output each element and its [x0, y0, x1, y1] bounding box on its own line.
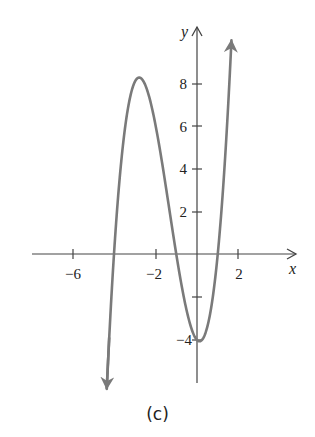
- x-tick-label-neg2: −2: [146, 266, 162, 282]
- y-tick-label-neg4: −4: [176, 332, 192, 348]
- y-tick-label-8: 8: [180, 76, 188, 92]
- curve-left-arrow-icon: [107, 338, 109, 389]
- y-tick-label-4: 4: [180, 161, 188, 177]
- x-tick-label-neg6: −6: [65, 266, 81, 282]
- x-tick-label-2: 2: [235, 266, 243, 282]
- figure-caption: (c): [0, 404, 315, 424]
- y-axis-label: y: [179, 23, 189, 41]
- y-tick-label-2: 2: [180, 204, 188, 220]
- function-curve: [107, 40, 232, 389]
- chart-svg: −6 −2 2 8 6 4 2 −4 x y: [0, 0, 315, 437]
- x-axis-label: x: [288, 260, 296, 277]
- y-tick-label-6: 6: [180, 119, 188, 135]
